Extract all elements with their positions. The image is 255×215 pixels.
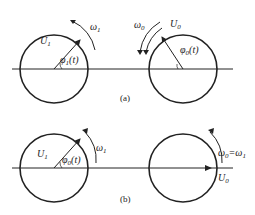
- u1-label: U1: [40, 35, 51, 48]
- omega1-label: ω1: [90, 21, 101, 34]
- u1-label: U1: [37, 148, 48, 161]
- arrowhead-icon: [137, 50, 143, 55]
- caption-a: (a): [120, 93, 130, 103]
- phasor-diagram: U1 φ1(t) ω1 U0 φ0(t) ω0 (a) U1 φ0(t) ω1 …: [0, 0, 255, 215]
- omega0-label: ω0: [134, 19, 145, 32]
- panel-a: U1 φ1(t) ω1 U0 φ0(t) ω0 (a): [12, 18, 233, 103]
- panel-b: U1 φ0(t) ω1 ω0=ω1 U0 (b): [12, 128, 246, 204]
- arrowhead-icon: [143, 50, 149, 55]
- u0-label: U0: [218, 172, 229, 185]
- phi0-label: φ0(t): [62, 154, 81, 167]
- u0-label: U0: [170, 18, 181, 31]
- arrowhead-icon: [82, 128, 88, 134]
- phi1-label: φ1(t): [60, 54, 79, 67]
- caption-b: (b): [120, 194, 131, 204]
- angle-arc: [177, 64, 178, 69]
- omega1-label: ω1: [96, 142, 107, 155]
- u0-phasor-arrowhead-icon: [205, 165, 212, 171]
- phi0-label: φ0(t): [180, 44, 199, 57]
